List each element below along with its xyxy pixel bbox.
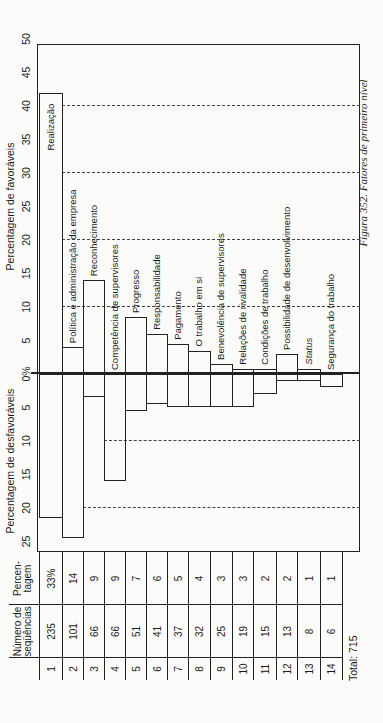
bar-unfavorable	[210, 374, 233, 408]
table-cell-index: 9	[216, 666, 227, 672]
table-cell-count: 32	[194, 626, 205, 637]
gridline-favorable	[62, 239, 360, 240]
tick-favorable: 35	[20, 134, 32, 146]
gridline-favorable	[62, 306, 360, 307]
tick-favorable: 40	[20, 100, 32, 112]
bar-unfavorable	[167, 374, 189, 408]
header-line: tagem	[23, 561, 33, 596]
tick-favorable: 45	[20, 67, 32, 79]
axis-title-unfavorable: Percentagem de desfavoráveis	[4, 389, 16, 534]
table-cell-percent: 6	[151, 576, 162, 582]
bar-favorable	[276, 354, 298, 374]
table-cell-index: 6	[151, 666, 162, 672]
axis-title-favorable: Percentagem de favoráveis	[4, 143, 16, 271]
table-cell-index: 12	[281, 663, 292, 674]
bar-unfavorable	[297, 374, 321, 381]
table-cell-percent: 14	[67, 573, 78, 584]
table-cell-count: 66	[88, 626, 99, 637]
table-cell-index: 2	[67, 666, 78, 672]
bar-unfavorable	[104, 374, 126, 481]
tick-unfavorable: 25	[20, 536, 32, 548]
gridline-unfavorable	[104, 440, 360, 441]
table-section-divider	[9, 604, 342, 605]
table-cell-percent: 9	[109, 576, 120, 582]
table-row-divider	[125, 552, 126, 680]
table-cell-percent: 4	[194, 576, 205, 582]
table-row-divider	[232, 552, 233, 680]
table-row-divider	[104, 552, 105, 680]
tick-favorable: 30	[20, 167, 32, 179]
table-total: Total: 715	[347, 635, 359, 681]
table-cell-index: 8	[194, 666, 205, 672]
bar-category-label: Realização	[45, 104, 56, 151]
gridline-favorable	[62, 172, 360, 173]
table-cell-count: 235	[45, 623, 56, 640]
gridline-unfavorable	[83, 507, 360, 508]
bar-category-label: Pagamento	[172, 291, 183, 340]
table-cell-percent: 9	[88, 576, 99, 582]
tick-favorable: 15	[20, 268, 32, 280]
bar-unfavorable	[125, 374, 147, 411]
table-cell-index: 4	[109, 666, 120, 672]
bar-category-label: Segurança do trabalho	[325, 274, 336, 370]
tick-favorable: 25	[20, 201, 32, 213]
table-cell-percent: 1	[326, 576, 337, 582]
table-header-count: Número deseqüências	[13, 606, 33, 657]
table-cell-count: 8	[303, 629, 314, 635]
table-cell-percent: 2	[281, 576, 292, 582]
table-cell-index: 3	[88, 666, 99, 672]
table-cell-index: 1	[45, 666, 56, 672]
table-cell-count: 51	[130, 626, 141, 637]
table-row-divider	[297, 552, 298, 680]
table-cell-count: 15	[259, 626, 270, 637]
table-cell-count: 25	[216, 626, 227, 637]
table-cell-index: 13	[303, 663, 314, 674]
table-row-divider	[146, 552, 147, 680]
gridline-favorable	[62, 105, 360, 106]
header-line: seqüências	[23, 606, 33, 657]
tick-unfavorable: 5	[20, 405, 32, 411]
table-row-divider	[167, 552, 168, 680]
figure-caption: Figura 352. Fatores de primeiro nível	[357, 79, 369, 246]
table-cell-count: 13	[281, 626, 292, 637]
table-cell-count: 37	[172, 626, 183, 637]
bar-favorable	[167, 344, 189, 374]
bar-unfavorable	[232, 374, 254, 408]
table-cell-percent: 1	[303, 576, 314, 582]
tick-favorable: 0%	[20, 366, 32, 381]
bar-unfavorable	[62, 374, 84, 538]
bar-unfavorable	[188, 374, 211, 408]
table-cell-index: 7	[172, 666, 183, 672]
bar-unfavorable	[39, 374, 63, 518]
table-cell-percent: 3	[237, 576, 248, 582]
bar-favorable	[125, 317, 147, 374]
bar-unfavorable	[276, 374, 298, 381]
tick-favorable: 10	[20, 301, 32, 313]
bar-category-label: Progresso	[130, 270, 141, 313]
table-cell-count: 101	[67, 623, 78, 640]
bar-favorable	[146, 334, 168, 374]
tick-favorable: 50	[20, 33, 32, 45]
table-row-divider	[62, 552, 63, 680]
table-cell-index: 10	[237, 663, 248, 674]
tick-favorable: 20	[20, 234, 32, 246]
bar-unfavorable	[146, 374, 168, 404]
table-cell-percent: 2	[259, 576, 270, 582]
bar-favorable	[188, 351, 211, 374]
table-row-divider	[320, 552, 321, 680]
table-cell-index: 11	[259, 664, 270, 674]
tick-favorable: 5	[20, 338, 32, 344]
bar-category-label: Responsabilidade	[151, 254, 162, 330]
table-section-divider	[9, 657, 342, 658]
table-row-divider	[188, 552, 189, 680]
bar-category-label: Possibilidade de desenvolvimento	[281, 207, 292, 350]
bar-category-label: Status	[303, 338, 314, 365]
bar-favorable	[210, 364, 233, 374]
bar-favorable	[83, 280, 105, 374]
table-cell-count: 19	[237, 626, 248, 637]
bar-unfavorable	[253, 374, 277, 394]
bar-category-label: Competência de supervisores	[109, 244, 120, 370]
table-cell-count: 6	[326, 629, 337, 635]
tick-unfavorable: 15	[20, 469, 32, 481]
table-cell-index: 5	[130, 666, 141, 672]
